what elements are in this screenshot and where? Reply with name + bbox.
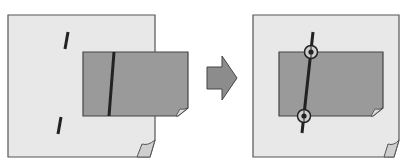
small-sheet: [83, 52, 188, 116]
diagram-canvas: [0, 0, 410, 165]
after-panel: [253, 15, 399, 157]
before-panel: [8, 15, 188, 157]
small-sheet-aligned: [279, 52, 383, 116]
bottom-circle-marker-icon: [298, 110, 311, 123]
top-circle-marker-icon: [305, 46, 318, 59]
arrow-right-icon: [207, 56, 237, 100]
